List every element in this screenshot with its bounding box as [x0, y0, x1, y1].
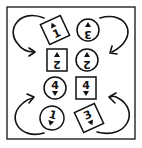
token-label: 2: [83, 58, 91, 71]
token-bottom-right-square: 3: [74, 103, 103, 132]
token-top-right-circle: 3: [77, 19, 99, 41]
token-label: 4: [51, 79, 59, 92]
token-row2-left-square: 2: [47, 49, 67, 71]
token-row3-right-square: 4: [76, 77, 96, 99]
token-label: 2: [53, 58, 61, 71]
connector-bottom-right: [97, 93, 129, 133]
frame-border: [7, 7, 135, 139]
connector-top-right: [100, 17, 128, 54]
token-label: 4: [82, 79, 90, 92]
token-row2-right-circle: 2: [76, 49, 98, 71]
connector-top-left: [13, 15, 44, 56]
token-bottom-left-circle: 1: [37, 103, 66, 132]
token-row3-left-circle: 4: [44, 77, 66, 99]
token-top-left-square: 1: [40, 15, 69, 44]
connector-bottom-left: [15, 94, 44, 134]
diagram-canvas: 1 3 2 2 4 4 1 3: [0, 0, 142, 148]
token-label: 3: [84, 28, 92, 41]
